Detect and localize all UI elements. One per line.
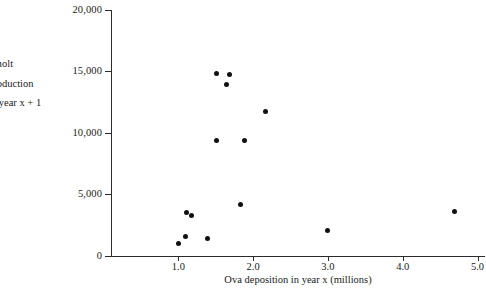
data-point xyxy=(214,138,219,143)
data-points-layer xyxy=(0,0,486,294)
data-point xyxy=(189,213,194,218)
data-point xyxy=(176,241,181,246)
data-point xyxy=(214,71,219,76)
data-point xyxy=(263,109,268,114)
data-point xyxy=(183,234,188,239)
scatter-plot-figure: 05,00010,00015,00020,000 1.02.03.04.05.0… xyxy=(0,0,486,294)
data-point xyxy=(325,228,330,233)
data-point xyxy=(224,82,229,87)
data-point xyxy=(242,138,247,143)
data-point xyxy=(205,236,210,241)
data-point xyxy=(452,209,457,214)
data-point xyxy=(238,202,243,207)
data-point xyxy=(227,72,232,77)
